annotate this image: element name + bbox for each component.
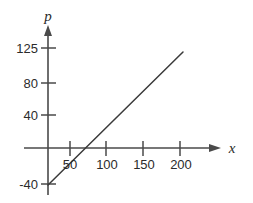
y-tick-label-neg40: -40: [19, 177, 38, 192]
x-tick-label-100: 100: [96, 157, 118, 172]
x-axis-label: x: [228, 140, 236, 156]
x-axis-arrow-icon: [209, 144, 221, 152]
coordinate-plot: 125 80 40 -40 50 100 150 200 p x: [0, 0, 253, 203]
y-tick-label-125: 125: [16, 41, 38, 56]
x-tick-label-200: 200: [170, 157, 192, 172]
y-axis-arrow-icon: [44, 25, 52, 36]
top-artifact-text: [36, 0, 236, 9]
y-axis-label: p: [43, 8, 52, 24]
graph-figure: 125 80 40 -40 50 100 150 200 p x: [0, 0, 253, 203]
x-tick-label-50: 50: [63, 157, 77, 172]
y-tick-label-80: 80: [24, 76, 38, 91]
y-tick-label-40: 40: [24, 108, 38, 123]
x-tick-label-150: 150: [133, 157, 155, 172]
